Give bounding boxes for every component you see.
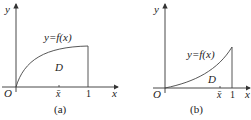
xbar-label-a: x̄ (55, 88, 61, 99)
xbar-label-b: x̄ (216, 89, 222, 100)
one-label-a: 1 (86, 88, 91, 99)
figure-canvas: y O x x̄ 1 y=f(x) D (a) y O x x̄ 1 y=f(x… (0, 0, 251, 120)
curve-a (16, 46, 88, 87)
function-label-a: y=f(x) (43, 31, 72, 44)
panel-a: y O x x̄ 1 y=f(x) D (a) (2, 3, 118, 116)
region-label-a: D (54, 61, 63, 73)
caption-b: (b) (190, 103, 203, 116)
one-label-b: 1 (230, 89, 235, 100)
panel-b: y O x x̄ 1 y=f(x) D (b) (153, 3, 250, 116)
caption-a: (a) (54, 103, 67, 116)
x-axis-label-a: x (111, 87, 117, 99)
y-axis-label-b: y (153, 3, 159, 15)
function-label-b: y=f(x) (186, 48, 215, 61)
origin-label-a: O (4, 87, 12, 99)
origin-label-b: O (153, 88, 161, 100)
region-label-b: D (207, 73, 216, 85)
x-axis-label-b: x (244, 88, 250, 100)
y-axis-label-a: y (4, 3, 10, 15)
